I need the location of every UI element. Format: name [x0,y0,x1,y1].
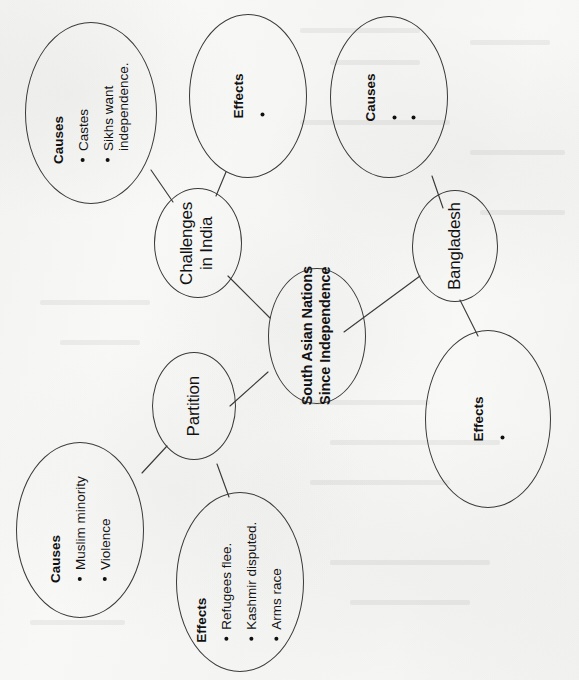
bangladesh-effects-bullets [496,427,505,442]
node-challenges-in-india-text: Challenges in India [178,201,219,284]
node-bangladesh-text: Bangladesh [445,202,465,290]
node-bangladesh-effects[interactable]: Effects [425,330,551,508]
edge-partition-effects [217,464,229,497]
node-india-causes-text: Causes Castes Sikhs want independence. [51,62,131,164]
list-item [496,427,505,440]
bangladesh-causes-label: Causes [363,73,378,121]
bullet-dot-icon [501,436,505,440]
partition-effects-bullets: Refugees flee. Kashmir disputed. Arms ra… [220,521,285,642]
node-india-effects[interactable]: Effects [189,14,307,178]
india-causes-bullets: Castes Sikhs want independence. [76,62,131,164]
node-india-causes[interactable]: Causes Castes Sikhs want independence. [25,22,157,204]
partition-label: Partition [184,376,203,437]
bullet-dot-icon [393,115,397,119]
challenges-line-1: Challenges [178,201,197,284]
center-line-1: South Asian Nations [299,266,315,405]
bullet-dot-icon [261,113,265,117]
india-effects-bullets [256,104,265,119]
node-bangladesh[interactable]: Bangladesh [412,190,498,302]
edge-challenges-effects [216,172,226,196]
node-bangladesh-causes[interactable]: Causes [330,16,448,178]
list-item: Violence [97,477,112,582]
list-item: Refugees flee. [220,521,235,640]
list-item [388,106,397,119]
node-partition-effects-text: Effects Refugees flee. Kashmir disputed.… [195,521,285,642]
bullet-dot-icon [412,115,416,119]
node-partition-causes[interactable]: Causes Muslim minority Violence [16,442,144,618]
bullet-dot-icon [77,577,81,581]
bullet-dot-icon [106,158,110,162]
center-line-2: Since Independence [317,267,333,405]
bullet-dot-icon [102,577,106,581]
node-bangladesh-causes-text: Causes [363,73,416,121]
bullet-dot-icon [250,637,254,641]
node-center[interactable]: South Asian Nations Since Independence [268,268,366,404]
bangladesh-effects-label: Effects [471,396,486,441]
list-item: Arms race [270,521,285,640]
bullet-dot-icon [275,637,279,641]
india-effects-label: Effects [231,73,246,118]
node-partition[interactable]: Partition [152,352,236,460]
node-challenges-in-india[interactable]: Challenges in India [154,188,242,298]
partition-effects-label: Effects [195,598,210,643]
edge-challenges-causes [151,170,173,202]
node-partition-effects[interactable]: Effects Refugees flee. Kashmir disputed.… [176,492,304,672]
bangladesh-label: Bangladesh [445,202,464,290]
bullet-dot-icon [225,637,229,641]
node-partition-causes-text: Causes Muslim minority Violence [47,477,112,584]
concept-map-page: South Asian Nations Since Independence C… [0,0,579,680]
list-item [256,104,265,117]
node-bangladesh-effects-text: Effects [471,396,505,441]
list-item: Castes [76,62,91,162]
node-india-effects-text: Effects [231,73,265,118]
bullet-dot-icon [81,158,85,162]
india-causes-label: Causes [51,116,66,164]
list-item: Kashmir disputed. [245,521,260,640]
edge-partition-causes [142,446,167,473]
partition-causes-bullets: Muslim minority Violence [72,477,112,584]
list-item [407,106,416,119]
node-center-text: South Asian Nations Since Independence [299,266,334,405]
list-item: Muslim minority [72,477,87,582]
partition-causes-label: Causes [47,535,62,583]
edge-center-challenges [228,276,270,318]
challenges-line-2: in India [198,216,217,269]
node-partition-text: Partition [184,376,204,437]
list-item: Sikhs want independence. [101,62,131,162]
bangladesh-causes-bullets [388,106,416,121]
